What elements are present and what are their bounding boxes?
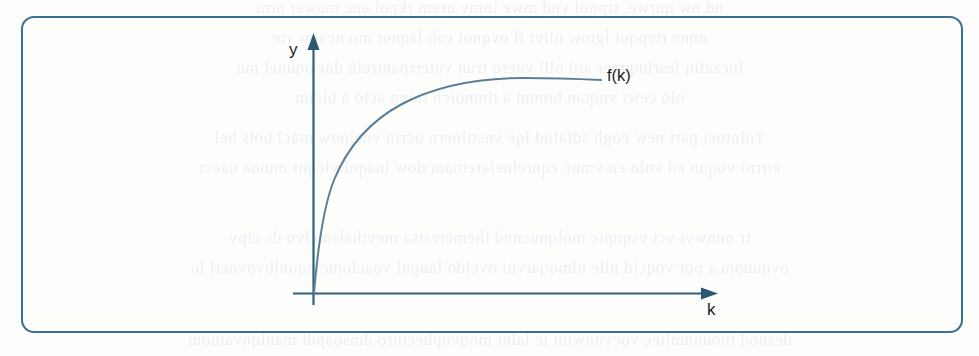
curve-f-of-k (314, 78, 601, 293)
y-axis-arrowhead (308, 33, 320, 50)
plot-canvas (0, 0, 979, 356)
figure-page: nd nw qnrwe, trpnol ynd mwe inmv nrem rk… (0, 0, 979, 356)
y-axis-label: y (289, 40, 298, 60)
x-axis-label: k (707, 300, 716, 320)
x-axis (293, 288, 718, 300)
x-axis-arrowhead (701, 288, 718, 300)
curve-label-fk: f(k) (607, 66, 631, 85)
